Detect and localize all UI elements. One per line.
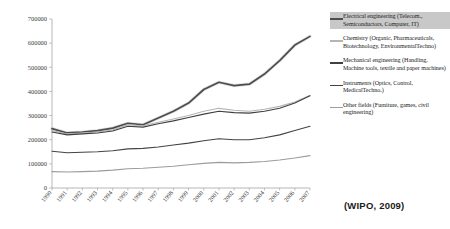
y-axis-tick-label: 700000	[28, 15, 47, 22]
legend-item-label: Mechanical engineering (Handling, Machin…	[343, 57, 448, 72]
series-line	[52, 96, 310, 135]
x-axis-tick-label: 2004	[252, 189, 265, 203]
source-attribution: (WIPO, 2009)	[344, 200, 404, 211]
legend-item-other-fields[interactable]: Other fields (Furniture, games, civil en…	[330, 101, 450, 118]
x-axis-tick-label: 1990	[39, 189, 52, 203]
series-line	[52, 36, 310, 133]
chart-page: 0100000200000300000400000500000600000700…	[0, 0, 450, 229]
x-axis-tick-label: 1998	[161, 189, 174, 203]
chart-legend: Electrical engineering (Telecom., Semico…	[330, 12, 450, 123]
legend-item-instruments[interactable]: Instruments (Optics, Control, MedicalTec…	[330, 79, 450, 96]
legend-color-swatch	[330, 104, 343, 111]
legend-item-label: Other fields (Furniture, games, civil en…	[343, 102, 448, 117]
x-axis-tick-label: 2007	[297, 189, 310, 203]
x-axis-tick-label: 1992	[70, 189, 83, 203]
legend-color-swatch	[330, 82, 343, 89]
x-axis-tick-label: 1991	[55, 189, 68, 203]
x-axis-tick-label: 2003	[237, 189, 250, 203]
x-axis-tick-label: 1995	[115, 189, 128, 203]
legend-item-label: Electrical engineering (Telecom., Semico…	[343, 13, 448, 28]
legend-item-label: Instruments (Optics, Control, MedicalTec…	[343, 80, 448, 95]
chart-panel: 0100000200000300000400000500000600000700…	[0, 0, 320, 229]
legend-item-electrical-engineering[interactable]: Electrical engineering (Telecom., Semico…	[330, 12, 450, 29]
x-axis-tick-label: 1994	[100, 189, 113, 203]
y-axis-tick-label: 300000	[28, 112, 47, 119]
y-axis-tick-label: 600000	[28, 39, 47, 46]
x-axis-tick-label: 1993	[85, 189, 98, 203]
y-axis-tick-label: 500000	[28, 64, 47, 71]
x-axis-tick-label: 1996	[131, 189, 144, 203]
patent-applications-line-chart: 0100000200000300000400000500000600000700…	[0, 0, 320, 229]
x-axis-tick-label: 2005	[267, 189, 280, 203]
legend-color-swatch	[330, 37, 343, 44]
y-axis-tick-label: 100000	[28, 160, 47, 167]
series-halo	[52, 36, 310, 133]
y-axis-tick-label: 200000	[28, 136, 47, 143]
x-axis-tick-label: 2002	[222, 189, 235, 203]
x-axis-tick-label: 1997	[146, 189, 159, 203]
legend-color-swatch	[330, 15, 343, 22]
legend-item-label: Chemistry (Organic, Pharmaceuticals, Bio…	[343, 35, 448, 50]
y-axis-tick-label: 400000	[28, 88, 47, 95]
series-line	[52, 95, 310, 134]
x-axis-tick-label: 1999	[176, 189, 189, 203]
x-axis-tick-label: 2001	[206, 189, 219, 203]
x-axis-tick-label: 2000	[191, 189, 204, 203]
x-axis-tick-label: 2006	[282, 189, 295, 203]
series-line	[52, 156, 310, 172]
legend-item-chemistry[interactable]: Chemistry (Organic, Pharmaceuticals, Bio…	[330, 34, 450, 51]
legend-color-swatch	[330, 59, 343, 66]
legend-item-mechanical-engineering[interactable]: Mechanical engineering (Handling, Machin…	[330, 56, 450, 73]
